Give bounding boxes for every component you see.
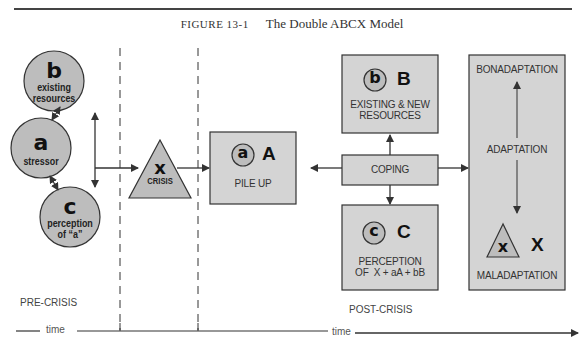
time-label-right: time <box>328 326 355 337</box>
perception-big-letter: C <box>397 221 411 243</box>
pileup-big-letter: A <box>262 143 276 165</box>
adaptation-label: ADAPTATION <box>469 144 565 155</box>
bonadaptation-label: BONADAPTATION <box>469 64 565 75</box>
resources-label: EXISTING & NEW RESOURCES <box>342 99 438 121</box>
maladaptation-small-letter: x <box>493 236 513 258</box>
perception-small-letter: c <box>364 220 384 242</box>
pileup-box <box>210 132 296 204</box>
pileup-small-letter: a <box>233 142 253 164</box>
crisis-label: x CRISIS <box>135 160 185 187</box>
circle-a-label: a stressor <box>11 132 71 167</box>
perception-label: PERCEPTION OF X + aA + bB <box>342 256 438 278</box>
post-crisis-label: POST-CRISIS <box>349 304 412 315</box>
resources-big-letter: B <box>397 68 411 90</box>
time-label-left: time <box>42 324 69 335</box>
resources-box <box>342 55 438 133</box>
diagram-canvas <box>0 0 584 352</box>
circle-b-label: b existing resources <box>24 60 84 104</box>
coping-box: COPING <box>342 164 438 175</box>
maladaptation-big-letter: X <box>531 234 544 256</box>
resources-small-letter: b <box>365 67 385 89</box>
pre-crisis-label: PRE-CRISIS <box>20 297 77 308</box>
pileup-label: PILE UP <box>210 178 296 189</box>
maladaptation-label: MALADAPTATION <box>469 270 565 281</box>
circle-c-label: c perception of “a” <box>38 196 102 240</box>
